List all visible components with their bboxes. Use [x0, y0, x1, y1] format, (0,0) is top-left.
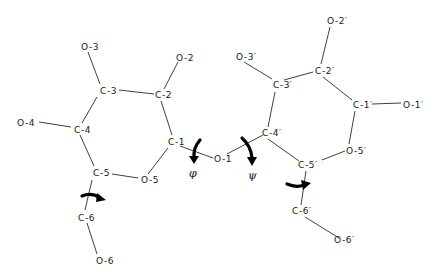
atom-c6-prime: C-6′ — [292, 206, 312, 216]
atom-c2-prime: C-2′ — [315, 66, 335, 76]
bond-c3p-c4p — [268, 92, 275, 127]
bond-c3-c4 — [82, 97, 97, 123]
atom-o5-prime: O-5′ — [346, 146, 367, 156]
atom-c6: C-6 — [78, 213, 95, 223]
bond-c4p-c5p — [268, 139, 299, 161]
phi-rotation-arrow — [194, 140, 200, 158]
left-ring-bonds — [39, 52, 213, 254]
bond-c1p-o5p — [349, 111, 355, 144]
atom-c2: C-2 — [155, 90, 172, 100]
atom-o3: O-3 — [81, 42, 99, 52]
bond-c1p-o1p — [372, 103, 401, 104]
bond-o4-c4 — [39, 122, 71, 127]
bond-o5-c1 — [148, 148, 168, 174]
psi-arrowhead-icon — [247, 157, 257, 166]
bond-c3p-c2p — [284, 72, 313, 80]
omega-rotation-arrow-right — [287, 184, 304, 186]
atom-o4: O-4 — [17, 118, 35, 128]
torsion-angle-labels: φ ψ — [189, 167, 257, 182]
omega-right-arrowhead-icon — [301, 180, 311, 190]
atom-c5: C-5 — [93, 168, 110, 178]
bond-c3-c2 — [119, 90, 154, 94]
bond-c4-c5 — [80, 135, 94, 166]
atom-o2-prime: O-2′ — [327, 16, 348, 26]
atom-o1-prime: O-1′ — [403, 100, 424, 110]
atom-o1: O-1 — [214, 154, 232, 164]
omega-left-arrowhead-icon — [96, 193, 106, 202]
atom-c4-prime: C-4′ — [262, 128, 282, 138]
atom-c3-prime: C-3′ — [273, 80, 293, 90]
right-ring-labels: O-2′ O-3′ C-2′ C-3′ C-1′ O-1′ C-4′ O-5′ … — [236, 16, 424, 245]
atom-c5-prime: C-5′ — [298, 160, 318, 170]
bond-c5p-o5p — [322, 151, 345, 160]
phi-label: φ — [189, 167, 197, 180]
psi-label: ψ — [248, 169, 257, 182]
atom-c1-prime: C-1′ — [353, 100, 373, 110]
bond-c5-o5 — [112, 174, 138, 178]
atom-o2: O-2 — [176, 53, 194, 63]
bond-c2-o2 — [164, 62, 178, 89]
phi-arrowhead-icon — [189, 156, 199, 164]
bond-c2-c1 — [161, 101, 172, 135]
bond-o3-c3 — [88, 52, 100, 84]
bond-o2p-c2p — [321, 27, 330, 64]
atom-c1: C-1 — [168, 137, 185, 147]
atom-o6-prime: O-6′ — [334, 235, 355, 245]
atom-c4: C-4 — [74, 125, 91, 135]
left-ring-labels: O-3 O-2 C-3 C-2 O-4 C-4 C-1 C-5 O-5 O-1 … — [17, 42, 232, 266]
bond-o3p-c3p — [244, 62, 272, 79]
bond-c6-o6 — [87, 223, 97, 254]
bond-o1-c4p — [227, 135, 263, 154]
atom-o6: O-6 — [96, 256, 114, 266]
atom-o5: O-5 — [141, 175, 159, 185]
atom-o3-prime: O-3′ — [236, 52, 257, 62]
atom-c3: C-3 — [100, 86, 117, 96]
bond-c2p-c1p — [323, 77, 352, 100]
psi-rotation-arrow — [242, 138, 252, 158]
disaccharide-diagram: O-3 O-2 C-3 C-2 O-4 C-4 C-1 C-5 O-5 O-1 … — [0, 0, 438, 277]
